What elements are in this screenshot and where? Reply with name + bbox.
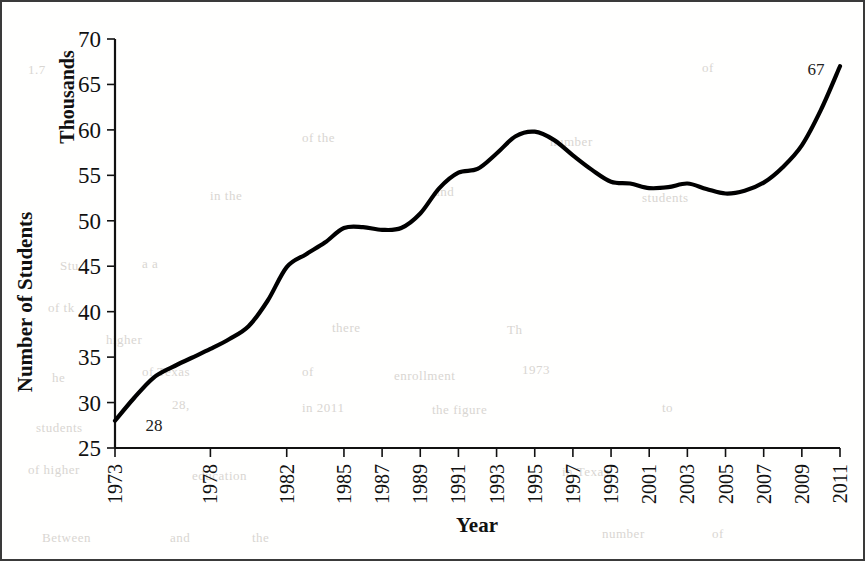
x-tick-label: 1987	[371, 464, 393, 504]
y-tick-label: 55	[78, 163, 101, 188]
x-tick-label: 1999	[600, 464, 622, 504]
data-series-line	[115, 66, 840, 420]
y-axis-unit: Thousands	[56, 50, 78, 144]
x-tick-label: 1973	[104, 464, 126, 504]
y-tick-label: 40	[78, 300, 101, 325]
x-axis-title: Year	[456, 513, 498, 537]
y-tick-label: 50	[78, 209, 101, 234]
y-axis-ticks: 25303540455055606570	[78, 27, 115, 461]
x-tick-label: 1985	[333, 464, 355, 504]
y-tick-label: 65	[78, 72, 101, 97]
y-tick-label: 25	[78, 436, 101, 461]
first-point-label: 28	[146, 416, 163, 435]
x-axis-ticks: 1973197819821985198719891991199319951997…	[104, 448, 851, 504]
x-tick-label: 1995	[524, 464, 546, 504]
y-tick-label: 30	[78, 391, 101, 416]
y-tick-label: 45	[78, 254, 101, 279]
x-tick-label: 2009	[791, 464, 813, 504]
x-tick-label: 1989	[409, 464, 431, 504]
x-tick-label: 2007	[753, 464, 775, 504]
y-tick-label: 60	[78, 118, 101, 143]
x-tick-label: 2003	[676, 464, 698, 504]
last-point-label: 67	[808, 60, 826, 79]
x-tick-label: 2005	[715, 464, 737, 504]
x-tick-label: 2011	[829, 464, 851, 503]
x-tick-label: 1978	[199, 464, 221, 504]
x-tick-label: 2001	[638, 464, 660, 504]
line-chart: 25303540455055606570 1973197819821985198…	[2, 2, 865, 561]
x-tick-label: 1991	[447, 464, 469, 504]
chart-figure: of thenumberin theandstudentsa aStuof tk…	[0, 0, 865, 561]
y-tick-label: 35	[78, 345, 101, 370]
x-tick-label: 1997	[562, 464, 584, 504]
y-axis-title: Number of Students	[13, 212, 37, 392]
x-tick-label: 1982	[276, 464, 298, 504]
y-tick-label: 70	[78, 27, 101, 52]
x-tick-label: 1993	[486, 464, 508, 504]
